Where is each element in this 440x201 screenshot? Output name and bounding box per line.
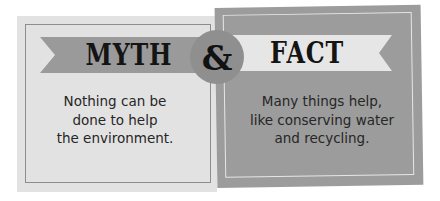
fact-banner: FACT (226, 35, 392, 71)
fact-line: like conserving water (232, 111, 412, 130)
myth-line: the environment. (30, 129, 200, 148)
myth-title: MYTH (86, 38, 173, 72)
myth-statement: Nothing can be done to help the environm… (30, 92, 200, 148)
ampersand-badge: & (190, 30, 244, 84)
myth-line: done to help (30, 111, 200, 130)
fact-title: FACT (270, 36, 344, 70)
fact-line: Many things help, (232, 92, 412, 111)
myth-line: Nothing can be (30, 92, 200, 111)
fact-statement: Many things help, like conserving water … (232, 92, 412, 148)
ampersand-icon: & (202, 38, 233, 78)
fact-line: and recycling. (232, 129, 412, 148)
myth-banner: MYTH (40, 37, 212, 73)
